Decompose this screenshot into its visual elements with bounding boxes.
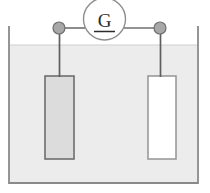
left-electrode	[45, 76, 74, 159]
left-terminal	[53, 22, 65, 34]
right-terminal	[154, 22, 166, 34]
electrochemical-cell-diagram: G	[0, 0, 210, 193]
diagram-canvas: G	[0, 0, 210, 193]
right-electrode	[148, 76, 176, 159]
galvanometer-label: G	[98, 10, 112, 31]
